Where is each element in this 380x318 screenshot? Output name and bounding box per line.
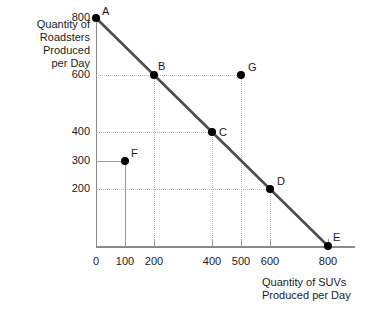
data-point-G[interactable] xyxy=(237,71,245,79)
x-tick-label-800: 800 xyxy=(312,255,344,267)
data-point-label-A: A xyxy=(102,5,109,17)
x-tick-label-200: 200 xyxy=(138,255,170,267)
data-point-label-F: F xyxy=(131,147,138,159)
y-tick-label-800: 800 xyxy=(54,11,90,23)
x-tick-label-400: 400 xyxy=(196,255,228,267)
data-point-label-C: C xyxy=(219,126,227,138)
data-point-A[interactable] xyxy=(92,14,100,22)
data-point-C[interactable] xyxy=(208,128,216,136)
x-tick-label-600: 600 xyxy=(254,255,286,267)
data-point-label-D: D xyxy=(277,175,285,187)
x-tick-label-500: 500 xyxy=(225,255,257,267)
data-point-E[interactable] xyxy=(324,242,332,250)
y-tick-label-400: 400 xyxy=(54,125,90,137)
y-axis-title: Quantity of Roadsters Produced per Day xyxy=(4,18,90,70)
x-axis-title: Quantity of SUVs Produced per Day xyxy=(262,276,378,302)
chart-container: Quantity of Roadsters Produced per Day Q… xyxy=(0,0,380,318)
data-point-label-G: G xyxy=(248,61,257,73)
x-tick-label-100: 100 xyxy=(109,255,141,267)
y-tick-label-300: 300 xyxy=(54,154,90,166)
x-tick-label-0: 0 xyxy=(80,255,112,267)
y-tick-label-600: 600 xyxy=(54,68,90,80)
data-point-B[interactable] xyxy=(150,71,158,79)
data-point-F[interactable] xyxy=(121,157,129,165)
data-point-label-E: E xyxy=(333,231,340,243)
data-point-label-B: B xyxy=(158,60,165,72)
y-tick-label-200: 200 xyxy=(54,182,90,194)
plot-area: ABCDEFG xyxy=(96,18,355,250)
data-point-D[interactable] xyxy=(266,185,274,193)
